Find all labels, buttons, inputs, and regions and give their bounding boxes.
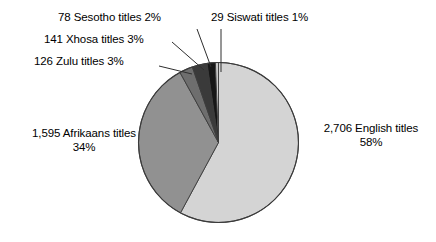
leader-line-sesotho	[197, 29, 211, 67]
slice-label-sesotho: 78 Sesotho titles 2%	[58, 10, 161, 24]
slice-label-afrikaans-percent: 34%	[16, 140, 152, 154]
leader-line-xhosa	[172, 42, 204, 70]
slice-label-zulu: 126 Zulu titles 3%	[34, 54, 124, 68]
slice-label-afrikaans-count: 1,595 Afrikaans titles	[32, 127, 136, 139]
pie-slices-group	[139, 62, 299, 222]
slice-label-afrikaans: 1,595 Afrikaans titles 34%	[16, 126, 152, 154]
slice-label-xhosa: 141 Xhosa titles 3%	[44, 32, 144, 46]
slice-label-english-percent: 58%	[311, 135, 431, 149]
slice-label-english: 2,706 English titles 58%	[311, 121, 431, 149]
slice-label-siswati: 29 Siswati titles 1%	[211, 10, 308, 24]
pie-chart-figure: 78 Sesotho titles 2% 29 Siswati titles 1…	[0, 0, 436, 242]
slice-label-english-count: 2,706 English titles	[324, 122, 419, 134]
